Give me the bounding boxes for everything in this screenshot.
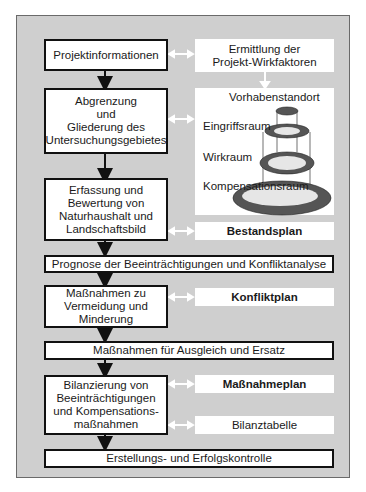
label-eingriffsraum: Eingriffsraum bbox=[203, 120, 271, 132]
label-kompensationsraum: Kompensationsraum bbox=[203, 180, 308, 192]
nested-space-cones-icon bbox=[0, 0, 366, 492]
label-vorhabenstandort: Vorhabenstandort bbox=[229, 91, 320, 103]
label-wirkraum: Wirkraum bbox=[203, 151, 252, 163]
